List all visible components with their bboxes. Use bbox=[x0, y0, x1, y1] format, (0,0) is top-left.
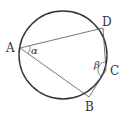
segment-cb bbox=[89, 70, 106, 97]
circle-diagram: A D C B α β bbox=[0, 0, 128, 118]
point-d-label: D bbox=[102, 15, 112, 29]
angle-alpha-arc bbox=[28, 46, 30, 54]
angle-alpha-label: α bbox=[31, 45, 38, 56]
point-b-label: B bbox=[85, 100, 94, 114]
angle-beta-label: β bbox=[93, 59, 100, 70]
segment-dc bbox=[103, 28, 106, 70]
point-a-label: A bbox=[5, 41, 15, 55]
point-c-label: C bbox=[110, 64, 119, 78]
